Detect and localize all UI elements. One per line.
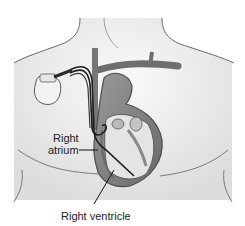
right-atrium-label-line1: Right [53, 133, 79, 144]
chest-diagram [0, 0, 245, 226]
valve-left [112, 119, 124, 129]
valve-right [130, 117, 142, 131]
pacemaker-header [40, 74, 56, 82]
right-ventricle-label: Right ventricle [61, 211, 131, 222]
right-atrium-label-line2: atrium [48, 145, 79, 156]
jugular-branch [150, 52, 152, 66]
pacemaker-illustration: Right atrium Right ventricle [0, 0, 245, 226]
